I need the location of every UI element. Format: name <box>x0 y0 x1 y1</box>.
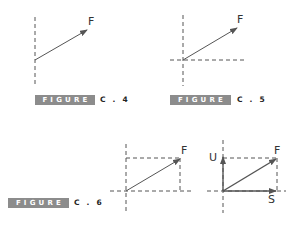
vector-f-label: F <box>181 145 187 156</box>
vector-f-label: F <box>274 145 280 156</box>
vector-s-label: S <box>268 194 275 205</box>
figure-badge: FIGURE <box>8 198 69 208</box>
vector-f-arrow <box>223 159 276 191</box>
figure-c4-diagram <box>35 17 87 84</box>
figure-number: C . 5 <box>237 95 267 105</box>
vector-f-arrow <box>183 28 237 60</box>
vector-f-arrow <box>35 30 87 60</box>
figure-badge: FIGURE <box>35 95 95 105</box>
figure-badge: FIGURE <box>170 95 231 105</box>
figure-number: C . 4 <box>100 95 130 105</box>
vector-f-label: F <box>237 14 243 25</box>
figure-number: C . 6 <box>74 198 104 208</box>
vector-u-label: U <box>209 152 217 163</box>
vector-f-label: F <box>88 16 94 27</box>
vector-f-arrow <box>126 159 180 191</box>
figure-c5-diagram <box>170 15 246 86</box>
